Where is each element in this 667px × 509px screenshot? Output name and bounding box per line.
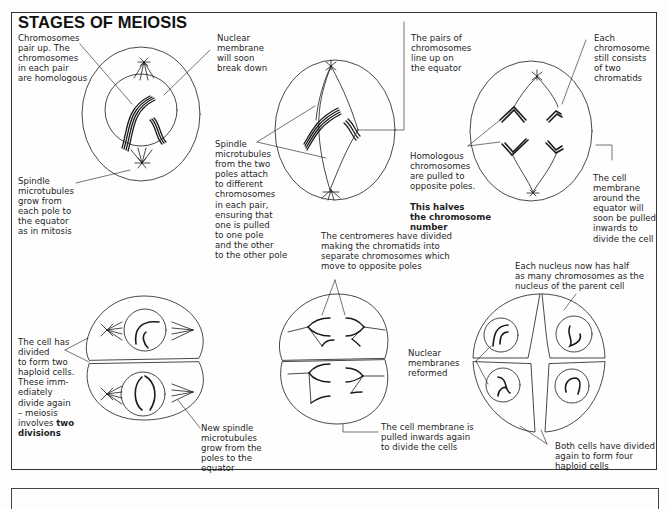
aster-top: [134, 58, 154, 80]
cell-tr: [542, 294, 605, 358]
label-nuclear-membranes-reformed: Nuclear membranes reformed: [408, 348, 460, 378]
label-cell-membrane-equator: The cell membrane around the equator wil…: [593, 173, 656, 244]
label-each-chromosome: Each chromosome still consists of two ch…: [594, 33, 650, 83]
label-cell-divided: The cell has divided to form two haploid…: [18, 337, 74, 438]
label-pairs-line-up: The pairs of chromosomes line up on the …: [411, 33, 471, 73]
stage-telophase-2: [473, 294, 605, 444]
label-homologous-pulled: Homologous chromosomes are pulled to opp…: [410, 141, 491, 232]
label-cell-divided-text: The cell has divided to form two haploid…: [18, 337, 74, 428]
label-spindle-grow: Spindle microtubules grow from each pole…: [18, 176, 74, 237]
label-spindle-attach: Spindle microtubules from the two poles …: [215, 139, 287, 260]
label-halves-number: This halves the chromosome number: [410, 202, 491, 232]
chromosome-pairs: [304, 108, 360, 150]
upper-cell: [86, 296, 203, 360]
aster-bottom: [527, 190, 539, 196]
label-nuclear-membrane: Nuclear membrane will soon break down: [217, 33, 267, 73]
stage-prophase-1: [76, 44, 210, 183]
chromatids: [500, 107, 563, 155]
label-four-haploid: Both cells have divided again to form fo…: [555, 441, 655, 471]
label-cell-membrane-again: The cell membrane is pulled inwards agai…: [381, 422, 474, 452]
label-new-spindle: New spindle microtubules grow from the p…: [201, 423, 262, 473]
upper-cell: [279, 294, 388, 360]
lower-cell: [281, 360, 388, 424]
stage-anaphase-2: [279, 280, 388, 432]
stage-telophase-1: [65, 296, 203, 428]
cell-br: [545, 362, 605, 432]
chromosome-pairs: [122, 96, 166, 151]
aster-bottom: [322, 190, 340, 200]
label-centromeres-divided: The centromeres have divided making the …: [321, 231, 452, 271]
aster-bottom: [131, 148, 152, 168]
label-each-nucleus-half: Each nucleus now has half as many chromo…: [515, 261, 644, 291]
cell-tl: [473, 294, 540, 358]
aster-top: [326, 60, 336, 70]
label-chromosomes-pair: Chromosomes pair up. The chromosomes in …: [18, 33, 87, 83]
label-homologous-text: Homologous chromosomes are pulled to opp…: [410, 151, 475, 191]
aster-top: [532, 70, 542, 80]
